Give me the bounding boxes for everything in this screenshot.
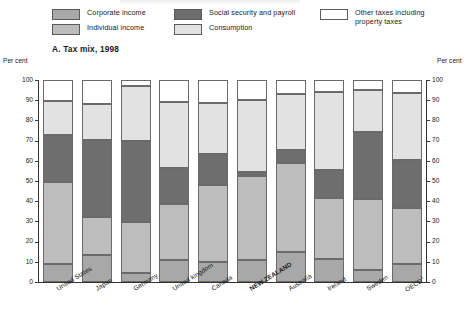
legend-item-social-security-and-payroll: Social security and payroll — [174, 8, 295, 20]
y-axis-tick-right-60 — [427, 161, 430, 162]
y-axis-tick-label-left-60: 60 — [11, 158, 33, 165]
legend-label-social-security-and-payroll: Social security and payroll — [209, 8, 295, 17]
y-axis-tick-label-right-70: 70 — [432, 137, 454, 144]
bar-chart-plot-area: 0010102020303040405050606070708080909010… — [38, 80, 427, 283]
bar-oecd[interactable] — [392, 80, 422, 282]
legend-item-other-taxes: Other taxes including property taxes — [320, 8, 433, 27]
bar-germany[interactable] — [121, 80, 151, 282]
legend-label-other-taxes: Other taxes including property taxes — [355, 8, 433, 27]
bar-japan[interactable] — [82, 80, 112, 282]
bar-segment-social-security-and-payroll — [82, 140, 112, 218]
y-axis-tick-right-100 — [427, 80, 430, 81]
bar-segment-consumption — [314, 92, 344, 170]
bar-united-kingdom[interactable] — [159, 80, 189, 282]
bar-segment-social-security-and-payroll — [43, 135, 73, 182]
bar-segment-other-taxes-including-property-taxes — [314, 80, 344, 92]
y-axis-tick-left-0 — [35, 282, 38, 283]
y-axis-tick-label-left-20: 20 — [11, 238, 33, 245]
bar-segment-individual-income — [276, 163, 306, 252]
bar-segment-other-taxes-including-property-taxes — [392, 80, 422, 93]
bar-segment-consumption — [43, 101, 73, 134]
y-axis-tick-right-80 — [427, 120, 430, 121]
bar-segment-consumption — [159, 102, 189, 168]
bar-segment-consumption — [121, 86, 151, 141]
y-axis-tick-label-right-10: 10 — [432, 259, 454, 266]
bar-segment-consumption — [392, 93, 422, 160]
legend-item-individual-income: Individual income — [52, 23, 146, 35]
top-crop-artifact — [120, 0, 300, 5]
bar-segment-individual-income — [43, 182, 73, 264]
bar-segment-social-security-and-payroll — [392, 160, 422, 208]
y-axis-tick-right-20 — [427, 242, 430, 243]
bar-segment-consumption — [198, 103, 228, 154]
bar-segment-other-taxes-including-property-taxes — [121, 80, 151, 86]
legend-swatch-consumption — [174, 24, 202, 35]
bar-segment-individual-income — [121, 222, 151, 273]
y-axis-tick-label-right-60: 60 — [432, 158, 454, 165]
legend-column-3: Other taxes including property taxes — [320, 8, 433, 30]
y-axis-tick-label-right-20: 20 — [432, 238, 454, 245]
y-axis-tick-label-left-100: 100 — [11, 77, 33, 84]
bar-segment-individual-income — [82, 217, 112, 254]
bar-segment-social-security-and-payroll — [159, 168, 189, 204]
y-axis-tick-label-left-40: 40 — [11, 198, 33, 205]
plot-inner — [39, 80, 426, 282]
chart-legend: Corporate income Individual income Socia… — [0, 8, 473, 42]
y-axis-tick-left-90 — [35, 100, 38, 101]
bar-segment-consumption — [237, 100, 267, 172]
bar-segment-other-taxes-including-property-taxes — [353, 80, 383, 90]
legend-swatch-social-security-and-payroll — [174, 9, 202, 20]
bar-segment-social-security-and-payroll — [237, 172, 267, 176]
y-axis-tick-label-left-10: 10 — [11, 259, 33, 266]
legend-item-consumption: Consumption — [174, 23, 295, 35]
panel-title: A. Tax mix, 1998 — [52, 44, 119, 54]
y-axis-tick-right-10 — [427, 262, 430, 263]
y-axis-tick-left-20 — [35, 242, 38, 243]
bar-segment-social-security-and-payroll — [198, 154, 228, 185]
bar-segment-individual-income — [314, 198, 344, 259]
y-axis-tick-label-right-90: 90 — [432, 97, 454, 104]
y-axis-tick-right-70 — [427, 141, 430, 142]
y-axis-tick-right-90 — [427, 100, 430, 101]
y-axis-tick-label-right-0: 0 — [432, 279, 454, 286]
bar-segment-other-taxes-including-property-taxes — [82, 80, 112, 104]
legend-swatch-other-taxes — [320, 9, 348, 20]
y-axis-tick-left-60 — [35, 161, 38, 162]
bar-canada[interactable] — [198, 80, 228, 282]
legend-label-corporate-income: Corporate income — [87, 8, 146, 17]
y-axis-tick-left-50 — [35, 181, 38, 182]
legend-swatch-individual-income — [52, 24, 80, 35]
bar-segment-individual-income — [159, 204, 189, 260]
y-axis-tick-left-30 — [35, 221, 38, 222]
bar-united-states[interactable] — [43, 80, 73, 282]
y-axis-tick-label-right-80: 80 — [432, 117, 454, 124]
bar-segment-social-security-and-payroll — [314, 170, 344, 198]
bar-segment-consumption — [276, 94, 306, 150]
bar-segment-other-taxes-including-property-taxes — [198, 80, 228, 103]
legend-column-1: Corporate income Individual income — [52, 8, 146, 38]
bar-australia[interactable] — [276, 80, 306, 282]
y-axis-tick-right-30 — [427, 221, 430, 222]
y-axis-tick-left-70 — [35, 141, 38, 142]
y-axis-tick-label-right-50: 50 — [432, 178, 454, 185]
y-axis-tick-label-left-80: 80 — [11, 117, 33, 124]
legend-label-consumption: Consumption — [209, 23, 252, 32]
y-axis-tick-right-50 — [427, 181, 430, 182]
y-axis-tick-right-40 — [427, 201, 430, 202]
bar-segment-consumption — [353, 90, 383, 131]
y-axis-tick-label-left-0: 0 — [11, 279, 33, 286]
y-axis-tick-label-right-30: 30 — [432, 218, 454, 225]
bar-segment-consumption — [82, 104, 112, 139]
y-axis-tick-label-right-40: 40 — [432, 198, 454, 205]
legend-swatch-corporate-income — [52, 9, 80, 20]
y-axis-unit-right: Per cent — [437, 57, 462, 64]
bar-segment-social-security-and-payroll — [276, 150, 306, 163]
bar-ireland[interactable] — [314, 80, 344, 282]
bar-sweden[interactable] — [353, 80, 383, 282]
bar-new-zealand[interactable] — [237, 80, 267, 282]
y-axis-tick-label-left-50: 50 — [11, 178, 33, 185]
legend-label-individual-income: Individual income — [87, 23, 144, 32]
bar-segment-other-taxes-including-property-taxes — [43, 80, 73, 101]
y-axis-tick-label-left-90: 90 — [11, 97, 33, 104]
y-axis-unit-left: Per cent — [3, 57, 28, 64]
